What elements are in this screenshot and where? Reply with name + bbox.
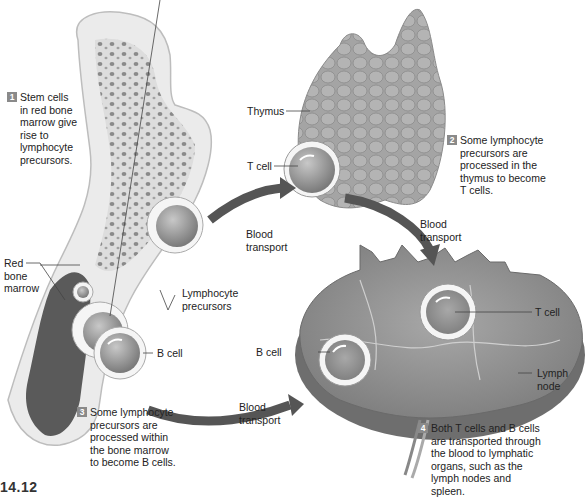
label-red-bone-marrow: Red bone marrow [4, 257, 39, 295]
figure-number: 14.12 [0, 478, 38, 496]
label-blood-transport-3: Blood transport [239, 401, 280, 426]
label-blood-transport-2: Blood transport [420, 218, 461, 243]
step-1: 1 Stem cells in red bone marrow give ris… [7, 91, 77, 166]
label-lymph-node: Lymph node [537, 367, 568, 392]
step-2: 2 Some lymphocyte precursors are process… [447, 134, 546, 197]
step-2-badge: 2 [447, 135, 457, 145]
arrow-bone-to-thymus [210, 177, 296, 220]
step-1-text: Stem cells in red bone marrow give rise … [20, 91, 77, 166]
step-3: 3 Some lymphocyte precursors are process… [77, 406, 176, 469]
label-blood-transport-1: Blood transport [246, 228, 287, 253]
label-t-cell-thymus: T cell [247, 160, 272, 173]
step-2-text: Some lymphocyte precursors are processed… [460, 134, 546, 197]
step-3-text: Some lymphocyte precursors are processed… [90, 406, 176, 469]
step-4-text: Both T cells and B cells are transported… [431, 422, 541, 497]
label-lymphocyte-precursors: Lymphocyte precursors [182, 287, 238, 312]
step-3-badge: 3 [77, 407, 87, 417]
step-1-badge: 1 [7, 92, 17, 102]
step-4: 4 Both T cells and B cells are transport… [418, 422, 541, 497]
b-cell-in-lymph-node [319, 334, 371, 386]
step-4-badge: 4 [418, 423, 428, 433]
b-cell-in-bone [94, 327, 146, 379]
label-thymus: Thymus [247, 105, 284, 118]
label-t-cell-node: T cell [535, 306, 560, 319]
label-b-cell-bone: B cell [157, 347, 183, 360]
label-b-cell-node: B cell [256, 346, 282, 359]
